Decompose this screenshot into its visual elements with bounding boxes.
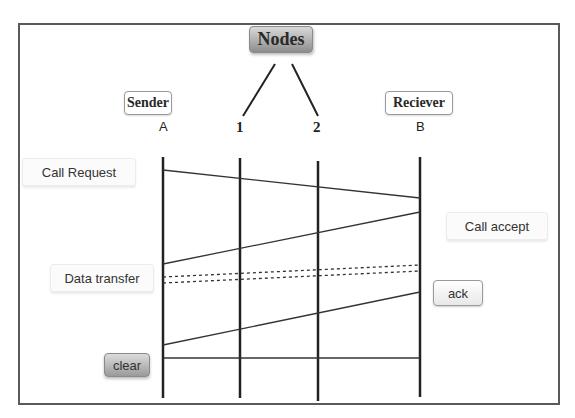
node-b-label: B xyxy=(416,119,425,134)
node-a-label: A xyxy=(159,119,168,134)
clear-label: clear xyxy=(104,353,150,377)
sender-label: Sender xyxy=(124,91,172,115)
call-request-label: Call Request xyxy=(22,158,136,186)
ack-line xyxy=(163,292,420,345)
call-accept-label: Call accept xyxy=(446,212,548,240)
sequence-lines xyxy=(0,0,575,418)
node-1-label: 1 xyxy=(236,119,244,136)
receiver-label: Reciever xyxy=(385,91,453,115)
node1-connector xyxy=(243,64,275,116)
data-transfer-label: Data transfer xyxy=(50,264,154,292)
call-request-line xyxy=(163,170,420,198)
call-accept-line xyxy=(163,212,420,264)
data-transfer-line-1 xyxy=(163,265,420,277)
nodes-title: Nodes xyxy=(249,26,313,53)
ack-label: ack xyxy=(433,280,483,306)
data-transfer-line-2 xyxy=(163,271,420,283)
node2-connector xyxy=(292,64,318,116)
node-2-label: 2 xyxy=(313,119,321,136)
